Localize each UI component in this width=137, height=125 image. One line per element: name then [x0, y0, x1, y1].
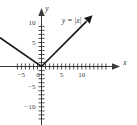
- y-axis-arrowhead: [38, 8, 44, 16]
- x-tick-label--5: −5: [18, 71, 26, 79]
- coordinate-plane: −5 0 5 10 10 5 −5 −10 x y y = |x|: [0, 0, 137, 125]
- graph-figure: −5 0 5 10 10 5 −5 −10 x y y = |x|: [0, 0, 137, 125]
- y-tick-label-10: 10: [29, 19, 37, 27]
- x-tick-label-5: 5: [60, 71, 64, 79]
- curve-equation-label: y = |x|: [61, 16, 82, 25]
- y-tick-label--10: −10: [25, 103, 36, 111]
- absolute-value-curve: [0, 21, 87, 66]
- y-tick-label-5: 5: [32, 39, 36, 47]
- y-axis-label: y: [44, 4, 49, 13]
- x-tick-label-10: 10: [78, 71, 86, 79]
- y-tick-label--5: −5: [28, 83, 36, 91]
- x-axis-label: x: [122, 58, 127, 67]
- x-tick-label-0: 0: [36, 71, 40, 79]
- x-axis-arrowhead: [112, 63, 120, 69]
